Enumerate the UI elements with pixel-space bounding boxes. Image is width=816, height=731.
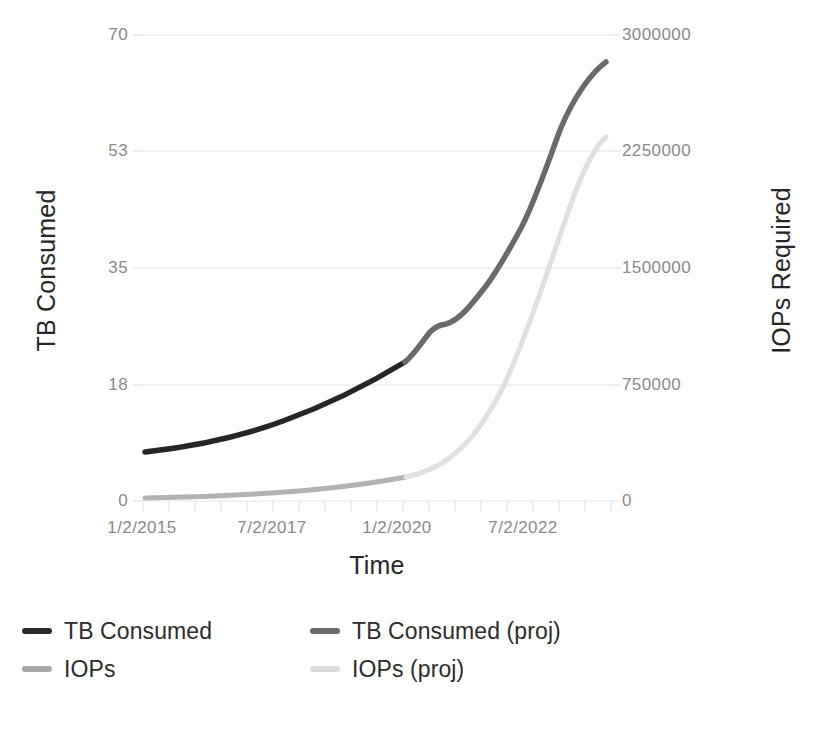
legend-item-tb-consumed-proj[interactable]: TB Consumed (proj) [310,612,598,650]
series-line-tb-consumed-proj [405,62,606,362]
y-axis-right-tick: 1500000 [622,258,772,278]
line-swatch-iops-proj-icon [310,666,340,672]
y-axis-ticks [133,35,143,501]
y-axis-right-tick: 750000 [622,375,772,395]
legend-label: TB Consumed [64,618,212,645]
chart-container: TB Consumed IOPs Required Time 70 53 35 … [0,0,816,731]
line-swatch-tb-consumed-icon [22,628,52,634]
y-axis-right-tick: 3000000 [622,25,772,45]
x-axis-tick: 1/2/2020 [327,518,467,538]
line-swatch-iops-icon [22,666,52,672]
legend-item-iops[interactable]: IOPs [22,650,310,688]
line-swatch-tb-consumed-proj-icon [310,628,340,634]
y-axis-left-tick: 18 [8,375,128,395]
x-axis-tick: 7/2/2022 [453,518,593,538]
series-line-iops [145,477,406,498]
legend-label: IOPs (proj) [352,656,464,683]
y-axis-right-tick: 0 [622,491,772,511]
legend-item-iops-proj[interactable]: IOPs (proj) [310,650,598,688]
y-axis-left-tick: 35 [8,258,128,278]
gridlines [143,35,611,501]
legend-label: IOPs [64,656,116,683]
x-axis-ticks [143,501,611,512]
y-axis-left-tick: 0 [8,491,128,511]
y-axis-right-tick: 2250000 [622,141,772,161]
legend-label: TB Consumed (proj) [352,618,561,645]
y2-axis-ticks [611,35,621,501]
x-axis-tick: 7/2/2017 [202,518,342,538]
series-line-tb-consumed [145,362,405,452]
legend-item-tb-consumed[interactable]: TB Consumed [22,612,310,650]
chart-legend: TB Consumed TB Consumed (proj) IOPs IOPs… [22,612,582,688]
series-line-iops-proj [406,137,606,477]
x-axis-title: Time [143,551,611,580]
y-axis-left-tick: 70 [8,25,128,45]
y-axis-left-tick: 53 [8,141,128,161]
x-axis-tick: 1/2/2015 [72,518,212,538]
